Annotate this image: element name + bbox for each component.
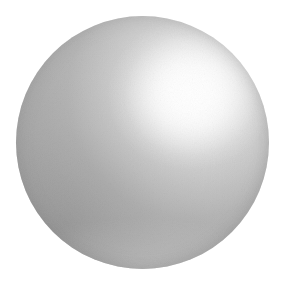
- sphere-silhouette-edge: [16, 16, 269, 269]
- sphere: [16, 16, 269, 269]
- image-canvas: [0, 0, 283, 283]
